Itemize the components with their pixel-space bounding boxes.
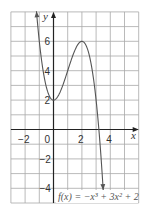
x-tick-label: 4 <box>106 134 112 145</box>
x-tick-label: 0 <box>45 134 51 145</box>
x-axis-label: x <box>130 129 136 141</box>
function-label: f(x) = −x³ + 3x² + 2 <box>58 191 139 203</box>
y-axis-label: y <box>42 10 48 22</box>
y-tick-label: −2 <box>40 154 52 165</box>
y-tick-label: 4 <box>45 66 51 77</box>
x-tick-label: −2 <box>18 134 30 145</box>
grid-lines <box>11 12 139 203</box>
x-tick-labels: −2024 <box>18 134 112 145</box>
curve-end-arrow-icon <box>100 184 105 190</box>
y-axis-arrow-icon <box>51 12 56 18</box>
y-tick-label: 6 <box>45 36 51 47</box>
x-tick-label: 2 <box>78 134 84 145</box>
function-graph: −2024 642−2−4 x y f(x) = −x³ + 3x² + 2 <box>0 0 147 207</box>
y-tick-label: 2 <box>45 95 51 106</box>
y-tick-label: −4 <box>40 183 52 194</box>
